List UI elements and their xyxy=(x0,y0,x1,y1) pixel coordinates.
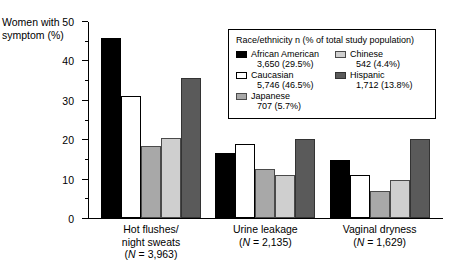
y-tick-major xyxy=(82,139,88,140)
x-axis-line xyxy=(88,218,443,219)
bar xyxy=(255,169,275,218)
legend-count: 542 (4.4%) xyxy=(356,59,428,69)
category-label-line1: Hot flushes/ xyxy=(91,223,211,236)
category-label-n: (N = 3,963) xyxy=(91,248,211,261)
y-tick-label: 30 xyxy=(62,95,74,107)
legend-swatch-icon xyxy=(335,72,346,79)
legend-column-left: African American3,650 (29.5%)Caucasian5,… xyxy=(236,49,329,112)
legend-entry: Hispanic1,712 (13.8%) xyxy=(335,70,428,90)
legend-swatch-icon xyxy=(236,51,247,58)
y-tick-minor xyxy=(85,41,89,42)
x-axis-category-label: Vaginal dryness(N = 1,629) xyxy=(320,223,440,248)
category-label-n: (N = 1,629) xyxy=(320,236,440,249)
legend-entry: Caucasian5,746 (46.5%) xyxy=(236,70,329,90)
bar xyxy=(275,175,295,218)
y-tick-major xyxy=(82,218,88,219)
legend-swatch-icon xyxy=(335,51,346,58)
category-label-line1: Urine leakage xyxy=(205,223,325,236)
y-tick-minor xyxy=(85,80,89,81)
bar xyxy=(141,146,161,218)
legend-entry: African American3,650 (29.5%) xyxy=(236,49,329,69)
legend-count: 707 (5.7%) xyxy=(257,101,329,111)
y-axis-title-line2: symptom (%) xyxy=(2,29,80,42)
bar xyxy=(181,78,201,218)
y-tick-major xyxy=(82,100,88,101)
bar xyxy=(390,180,410,218)
legend-count: 1,712 (13.8%) xyxy=(356,80,428,90)
y-tick-minor xyxy=(85,120,89,121)
legend-swatch-icon xyxy=(236,72,247,79)
x-axis-category-label: Hot flushes/night sweats(N = 3,963) xyxy=(91,223,211,261)
y-tick-label: 20 xyxy=(62,134,74,146)
bar xyxy=(235,144,255,218)
category-label-line2: night sweats xyxy=(91,236,211,249)
bar xyxy=(330,160,350,218)
legend-label: Japanese xyxy=(251,91,290,101)
y-tick-label: 0 xyxy=(68,213,74,225)
y-tick-minor xyxy=(85,159,89,160)
legend-label: Caucasian xyxy=(251,70,294,80)
legend-entry: Chinese542 (4.4%) xyxy=(335,49,428,69)
legend-label: African American xyxy=(251,49,319,59)
bar xyxy=(215,153,235,218)
legend-count: 3,650 (29.5%) xyxy=(257,59,329,69)
y-tick-label: 40 xyxy=(62,55,74,67)
bar xyxy=(410,139,430,218)
x-axis-category-label: Urine leakage(N = 2,135) xyxy=(205,223,325,248)
y-tick-major xyxy=(82,179,88,180)
bar xyxy=(161,138,181,218)
category-label-line1: Vaginal dryness xyxy=(320,223,440,236)
category-label-n: (N = 2,135) xyxy=(205,236,325,249)
legend-title: Race/ethnicity n (% of total study popul… xyxy=(236,35,428,45)
legend-entry: Japanese707 (5.7%) xyxy=(236,91,329,111)
bar xyxy=(121,96,141,218)
legend-label: Hispanic xyxy=(350,70,385,80)
bar xyxy=(350,175,370,218)
legend: Race/ethnicity n (% of total study popul… xyxy=(228,29,436,119)
bar xyxy=(370,191,390,218)
y-tick-label: 50 xyxy=(62,16,74,28)
legend-swatch-icon xyxy=(236,93,247,100)
legend-label: Chinese xyxy=(350,49,383,59)
y-tick-minor xyxy=(85,198,89,199)
y-tick-major xyxy=(82,60,88,61)
y-tick-major xyxy=(82,21,88,22)
legend-column-right: Chinese542 (4.4%)Hispanic1,712 (13.8%) xyxy=(335,49,428,112)
bar xyxy=(101,38,121,218)
y-tick-label: 10 xyxy=(62,174,74,186)
legend-count: 5,746 (46.5%) xyxy=(257,80,329,90)
bar xyxy=(295,139,315,218)
